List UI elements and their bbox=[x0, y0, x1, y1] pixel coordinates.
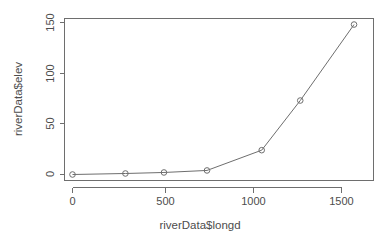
x-axis-title: riverData$longd bbox=[159, 219, 240, 231]
y-axis-title: riverData$elev bbox=[12, 62, 24, 136]
x-tick-label-500: 500 bbox=[156, 195, 174, 207]
y-axis: 0 50 100 150 bbox=[44, 13, 65, 177]
x-tick-label-0: 0 bbox=[69, 195, 75, 207]
x-tick-label-1000: 1000 bbox=[241, 195, 265, 207]
plot-canvas: 0 50 100 150 0 500 1000 1500 riverData$l… bbox=[0, 0, 392, 238]
x-axis: 0 500 1000 1500 bbox=[69, 188, 353, 208]
x-tick-label-1500: 1500 bbox=[329, 195, 353, 207]
data-series bbox=[70, 22, 357, 178]
y-tick-label-50: 50 bbox=[44, 117, 56, 129]
series-line bbox=[73, 25, 355, 175]
series-markers bbox=[70, 22, 357, 178]
plot-box bbox=[65, 19, 374, 181]
y-tick-label-0: 0 bbox=[44, 171, 56, 177]
r-plot-figure: 0 50 100 150 0 500 1000 1500 riverData$l… bbox=[0, 0, 392, 238]
y-tick-label-100: 100 bbox=[44, 64, 56, 82]
y-tick-label-150: 150 bbox=[44, 13, 56, 31]
